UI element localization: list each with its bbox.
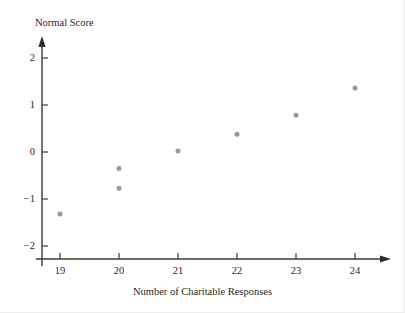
y-tick-label: 1: [30, 100, 35, 111]
data-point: [176, 149, 181, 154]
x-tick-label: 21: [173, 266, 184, 277]
axes-group: [36, 36, 391, 266]
data-points-group: [58, 86, 358, 217]
x-axis-title: Number of Charitable Responses: [0, 287, 405, 298]
x-tick-label: 22: [232, 266, 243, 277]
y-tick-label: 2: [30, 53, 35, 64]
x-axis-arrowhead: [380, 255, 391, 262]
data-point: [117, 186, 122, 191]
y-axis-title: Normal Score: [35, 18, 94, 29]
data-point: [235, 132, 240, 137]
normal-probability-plot: 210−1−2192021222324 Normal Score Number …: [0, 0, 405, 313]
data-point: [58, 212, 63, 217]
data-point: [294, 113, 299, 118]
x-tick-label: 24: [350, 266, 361, 277]
data-point: [117, 166, 122, 171]
y-tick-label: −2: [24, 241, 35, 252]
y-axis-arrowhead: [38, 36, 45, 47]
data-point: [353, 86, 358, 91]
x-tick-label: 20: [114, 266, 125, 277]
tick-marks-group: [42, 58, 355, 259]
x-tick-label: 19: [55, 266, 66, 277]
y-tick-label: −1: [24, 194, 35, 205]
x-tick-label: 23: [291, 266, 302, 277]
y-tick-label: 0: [30, 147, 35, 158]
